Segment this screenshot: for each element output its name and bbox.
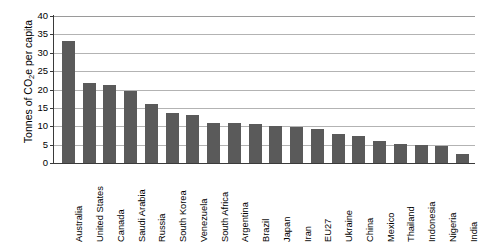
y-axis-tick-mark: [50, 145, 53, 146]
y-axis-tick-mark: [50, 71, 53, 72]
x-axis-category-label: Australia: [73, 168, 86, 242]
bar: [435, 146, 448, 163]
bar: [228, 123, 241, 163]
gridline: [54, 71, 475, 72]
y-axis-tick-label: 40: [22, 11, 48, 21]
x-axis-line: [54, 163, 475, 164]
x-axis-category-label: Ukraine: [343, 168, 356, 242]
gridline: [54, 108, 475, 109]
y-axis-tick-mark: [50, 53, 53, 54]
gridline: [54, 126, 475, 127]
gridline: [54, 16, 475, 17]
x-axis-category-label: South Africa: [219, 168, 232, 242]
y-axis-tick-label: 20: [22, 85, 48, 95]
bar: [83, 83, 96, 164]
y-axis-tick-mark: [50, 126, 53, 127]
bar: [249, 124, 262, 163]
x-axis-category-label: Venezuela: [198, 168, 211, 242]
bar: [124, 91, 137, 163]
x-axis-category-label: China: [364, 168, 377, 242]
bar: [145, 104, 158, 163]
bar: [269, 126, 282, 163]
y-axis-tick-mark: [50, 90, 53, 91]
bar: [332, 134, 345, 163]
bar: [103, 85, 116, 163]
x-axis-category-label: Japan: [281, 168, 294, 242]
x-axis-category-label: Indonesia: [426, 168, 439, 242]
bar: [415, 145, 428, 163]
plot-area: [54, 16, 475, 163]
x-axis-category-label: Argentina: [239, 168, 252, 242]
y-axis-tick-label: 15: [22, 103, 48, 113]
gridline: [54, 145, 475, 146]
x-axis-category-label: Russia: [156, 168, 169, 242]
bar: [311, 129, 324, 163]
y-axis-tick-label: 25: [22, 66, 48, 76]
y-axis-tick-label: 30: [22, 48, 48, 58]
bar: [290, 127, 303, 163]
bar: [207, 123, 220, 163]
bar: [62, 41, 75, 163]
y-axis-tick-label: 10: [22, 121, 48, 131]
y-axis-title: Tonnes of CO2e per capita: [19, 0, 37, 163]
x-axis-category-label: United States: [94, 168, 107, 242]
x-axis-category-label: Saudi Arabia: [136, 168, 149, 242]
bar: [373, 141, 386, 163]
x-axis-category-label: EU27: [322, 168, 335, 242]
y-axis-tick-mark: [50, 163, 53, 164]
y-axis-tick-label: 0: [22, 158, 48, 168]
x-axis-category-label: Canada: [115, 168, 128, 242]
gridline: [54, 34, 475, 35]
y-axis-tick-label: 5: [22, 140, 48, 150]
y-axis-tick-mark: [50, 34, 53, 35]
y-axis-tick-mark: [50, 108, 53, 109]
bar: [166, 113, 179, 163]
x-axis-category-label: Mexico: [385, 168, 398, 242]
y-axis-tick-label: 35: [22, 29, 48, 39]
x-axis-category-label: Nigeria: [447, 168, 460, 242]
x-axis-category-label: Thailand: [405, 168, 418, 242]
y-axis-tick-mark: [50, 16, 53, 17]
gridline: [54, 53, 475, 54]
x-axis-category-label: South Korea: [177, 168, 190, 242]
x-axis-category-label: Iran: [302, 168, 315, 242]
x-axis-category-label: Brazil: [260, 168, 273, 242]
bar: [352, 136, 365, 163]
bar: [394, 144, 407, 163]
gridline: [54, 90, 475, 91]
x-axis-category-label: India: [468, 168, 481, 242]
bar: [186, 115, 199, 164]
bar: [456, 154, 469, 163]
